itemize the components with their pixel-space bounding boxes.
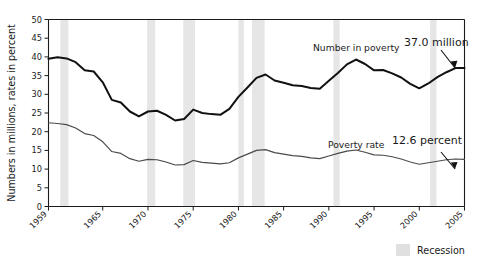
- y-axis-ticks: 05101520253035404550: [32, 15, 49, 212]
- y-tick-label: 30: [32, 89, 42, 99]
- x-tick-label: 1990: [307, 209, 329, 231]
- y-tick-label: 35: [32, 71, 42, 81]
- recession-band: [238, 20, 243, 207]
- x-tick-label: 1970: [127, 209, 149, 231]
- y-tick-label: 45: [32, 33, 42, 43]
- x-tick-label: 2000: [398, 209, 420, 231]
- poverty-rate-label: Poverty rate: [328, 139, 385, 150]
- y-tick-label: 25: [32, 108, 42, 118]
- y-tick-label: 40: [32, 52, 42, 62]
- legend-recession-swatch: [396, 244, 410, 256]
- y-tick-label: 20: [32, 127, 42, 137]
- legend: Recession: [396, 244, 465, 256]
- y-axis-title: Numbers in millions, rates in percent: [6, 24, 17, 202]
- chart-svg: 05101520253035404550 1959196519701975198…: [0, 0, 479, 268]
- number-in-poverty-arrow: [441, 50, 455, 68]
- poverty-chart: 05101520253035404550 1959196519701975198…: [0, 0, 479, 268]
- x-tick-label: 1975: [172, 209, 194, 231]
- x-tick-label: 1965: [81, 209, 103, 231]
- recession-band: [60, 20, 68, 207]
- poverty-rate-value: 12.6 percent: [392, 134, 463, 147]
- x-tick-label: 1985: [262, 209, 284, 231]
- legend-recession-label: Recession: [417, 245, 465, 256]
- x-tick-label: 2005: [443, 209, 465, 231]
- number-in-poverty-value: 37.0 million: [404, 36, 469, 49]
- x-tick-label: 1959: [27, 209, 49, 231]
- y-tick-label: 50: [32, 15, 42, 25]
- y-tick-label: 10: [32, 164, 42, 174]
- y-tick-label: 5: [37, 183, 42, 193]
- recession-band: [147, 20, 155, 207]
- number-in-poverty-label: Number in poverty: [313, 42, 400, 53]
- y-tick-label: 15: [32, 145, 42, 155]
- recession-band: [252, 20, 265, 207]
- x-tick-label: 1995: [353, 209, 375, 231]
- x-tick-label: 1980: [217, 209, 239, 231]
- x-axis-ticks: 1959196519701975198019851990199520002005: [27, 207, 465, 231]
